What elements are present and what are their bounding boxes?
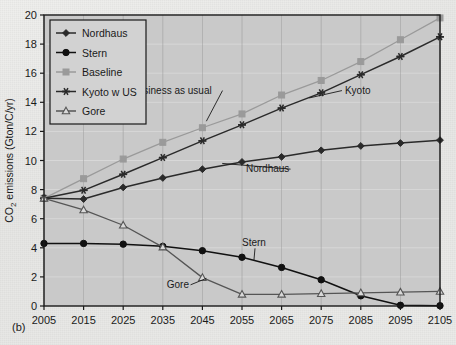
- legend-label: Kyoto w US: [82, 86, 137, 98]
- x-tick-label: 2005: [32, 314, 56, 326]
- legend-label: Gore: [82, 105, 106, 117]
- y-tick-label: 18: [25, 38, 37, 50]
- y-tick-label: 0: [31, 300, 37, 312]
- x-tick-label: 2065: [269, 314, 293, 326]
- legend-label: Stern: [82, 47, 107, 59]
- y-tick-label: 16: [25, 67, 37, 79]
- y-tick-label: 20: [25, 9, 37, 21]
- emissions-line-chart: 0246810121416182020052015202520352045205…: [0, 0, 456, 345]
- x-tick-label: 2045: [190, 314, 214, 326]
- annotation-stern: Stern: [242, 237, 266, 248]
- x-tick-label: 2025: [111, 314, 135, 326]
- legend-label: Baseline: [82, 66, 122, 78]
- legend: NordhausSternBaselineKyoto w USGore: [50, 20, 146, 124]
- x-tick-label: 2075: [309, 314, 333, 326]
- y-axis-title: CO2 emissions (Gton/C/yr): [3, 98, 18, 223]
- y-tick-label: 4: [31, 242, 37, 254]
- legend-label: Nordhaus: [82, 27, 128, 39]
- annotation-kyoto: Kyoto: [345, 85, 371, 96]
- x-tick-label: 2085: [349, 314, 373, 326]
- y-tick-label: 14: [25, 96, 37, 108]
- y-tick-label: 10: [25, 155, 37, 167]
- x-tick-label: 2035: [151, 314, 175, 326]
- y-tick-label: 8: [31, 184, 37, 196]
- y-tick-label: 6: [31, 213, 37, 225]
- x-tick-label: 2015: [71, 314, 95, 326]
- x-tick-label: 2055: [230, 314, 254, 326]
- x-tick-label: 2095: [388, 314, 412, 326]
- y-axis: 02468101214161820: [25, 9, 44, 312]
- y-tick-label: 12: [25, 125, 37, 137]
- y-tick-label: 2: [31, 271, 37, 283]
- figure-panel: 0246810121416182020052015202520352045205…: [0, 0, 456, 345]
- x-axis: 2005201520252035204520552065207520852095…: [32, 306, 452, 326]
- x-tick-label: 2105: [428, 314, 452, 326]
- panel-label: (b): [12, 321, 25, 333]
- annotation-gore: Gore: [167, 279, 190, 290]
